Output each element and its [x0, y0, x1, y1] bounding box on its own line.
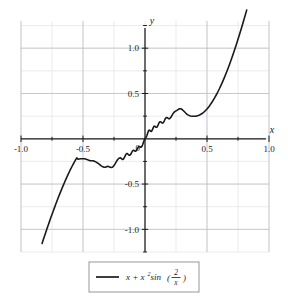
legend-fraction-denominator: x	[173, 278, 178, 287]
legend-paren-close: )	[182, 273, 186, 283]
legend-label-func: sin	[151, 272, 162, 282]
y-tick-label: -0.5	[125, 179, 140, 189]
x-tick-label: 1.0	[263, 144, 275, 154]
y-tick-label: -1.0	[125, 225, 140, 235]
x-tick-label: 0.5	[201, 144, 213, 154]
x-tick-label: -1.0	[14, 144, 29, 154]
y-tick-label: 1.0	[128, 43, 140, 53]
chart-figure: -1.0-0.50.51.0 1.00.5-0.5-1.0 0 x y x + …	[0, 0, 288, 302]
y-axis-label: y	[149, 15, 155, 26]
y-tick-label: 0.5	[128, 89, 140, 99]
legend: x + x 2 sin ( 2 x )	[89, 262, 199, 292]
legend-label-lead: x + x	[125, 272, 145, 282]
legend-fraction-numerator: 2	[174, 268, 178, 277]
x-axis-label: x	[269, 124, 275, 135]
x-tick-label: -0.5	[76, 144, 91, 154]
plot-canvas: -1.0-0.50.51.0 1.00.5-0.5-1.0 0 x y x + …	[0, 0, 288, 302]
figure-background	[0, 0, 288, 302]
